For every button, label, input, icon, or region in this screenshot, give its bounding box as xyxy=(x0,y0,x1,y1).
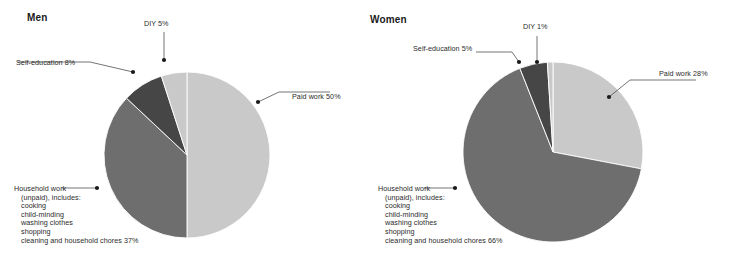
leader-line-women-self-education xyxy=(476,52,519,62)
callout-marker-women-paid-work xyxy=(607,95,611,99)
pie-slice-women-paid-work[interactable] xyxy=(553,62,643,169)
pie-slice-men-paid-work[interactable] xyxy=(187,72,270,238)
callout-marker-women-diy xyxy=(535,60,539,64)
callout-label-line: cleaning and household chores 37% xyxy=(21,237,139,246)
callout-label-women-paid-work: Paid work 28% xyxy=(659,70,708,79)
callout-label-men-diy: DIY 5% xyxy=(144,20,169,29)
callout-marker-women-self-education xyxy=(517,60,521,64)
callout-marker-men-self-education xyxy=(131,70,135,74)
callout-label-men-self-education: Self-education 8% xyxy=(16,59,75,68)
callout-label-men-household-work: Household work(unpaid), includes:cooking… xyxy=(14,185,139,245)
callout-label-line: cleaning and household chores 66% xyxy=(385,237,503,246)
callout-label-women-household-work: Household work(unpaid), includes:cooking… xyxy=(378,185,503,245)
callout-label-men-paid-work: Paid work 50% xyxy=(292,93,341,102)
callout-marker-men-diy xyxy=(162,58,166,62)
panel-title-women: Women xyxy=(370,14,407,25)
panel-title-men: Men xyxy=(27,12,48,23)
chart-canvas: MenPaid work 50%DIY 5%Self-education 8%H… xyxy=(0,0,730,268)
callout-marker-men-paid-work xyxy=(256,100,260,104)
callout-label-women-diy: DIY 1% xyxy=(523,23,548,32)
callout-label-women-self-education: Self-education 5% xyxy=(413,45,472,54)
